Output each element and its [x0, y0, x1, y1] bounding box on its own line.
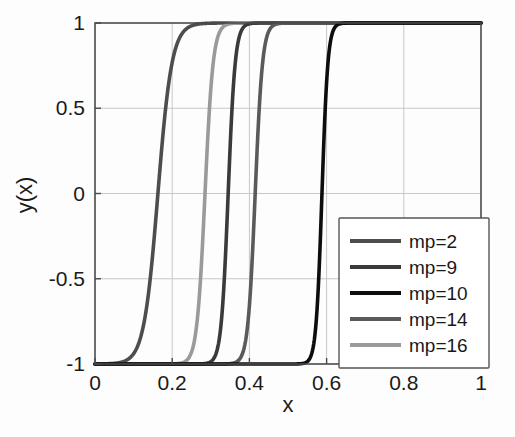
x-tick-label: 0.2 — [158, 371, 187, 394]
y-tick-label: -0.5 — [49, 267, 85, 290]
line-chart: 00.20.40.60.81 -1-0.500.51 x y(x) mp=2mp… — [0, 0, 515, 437]
legend-label-mp-14: mp=14 — [409, 309, 468, 330]
y-tick-label: -1 — [66, 352, 85, 375]
figure-canvas: 00.20.40.60.81 -1-0.500.51 x y(x) mp=2mp… — [0, 0, 515, 437]
x-tick-label: 0.4 — [235, 371, 265, 394]
y-tick-label: 0 — [73, 182, 85, 205]
legend-label-mp-9: mp=9 — [409, 257, 457, 278]
legend-label-mp-16: mp=16 — [409, 335, 468, 356]
y-tick-label: 1 — [73, 11, 85, 34]
legend-label-mp-2: mp=2 — [409, 231, 457, 252]
y-tick-label: 0.5 — [56, 96, 85, 119]
chart-legend[interactable]: mp=2mp=9mp=10mp=14mp=16 — [339, 218, 489, 368]
legend-label-mp-10: mp=10 — [409, 283, 468, 304]
x-tick-label: 1 — [475, 371, 487, 394]
x-tick-label: 0 — [89, 371, 101, 394]
y-axis-label: y(x) — [12, 177, 37, 214]
x-tick-label: 0.8 — [389, 371, 418, 394]
x-axis-label: x — [283, 392, 294, 417]
x-tick-label: 0.6 — [312, 371, 341, 394]
